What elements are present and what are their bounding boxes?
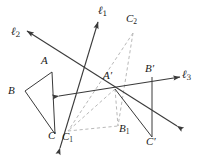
dashed-segment-c2-c1 <box>68 33 133 131</box>
triangle-abc <box>25 72 55 134</box>
label-line-l1: ℓ1 <box>98 5 107 16</box>
geometry-figure: ℓ1 ℓ2 ℓ3 A B C A′ B′ C′ B1 C1 C2 <box>0 0 206 161</box>
dashed-construction-lines <box>68 33 133 131</box>
label-vertex-b-prime: B′ <box>145 63 154 74</box>
dashed-segment-aprime-c1 <box>68 89 115 131</box>
line-l3 <box>59 77 180 96</box>
segment-ab <box>25 72 52 91</box>
dashed-segment-aprime-b1 <box>115 89 118 126</box>
label-vertex-a: A <box>41 55 48 66</box>
label-line-l2: ℓ2 <box>11 26 20 37</box>
segment-ac <box>52 72 55 134</box>
line-l2 <box>27 31 177 126</box>
label-vertex-a-prime: A′ <box>103 70 112 81</box>
label-vertex-c1: C1 <box>62 131 73 142</box>
label-vertex-c2: C2 <box>126 13 137 24</box>
segment-bc <box>25 91 55 134</box>
label-line-l3: ℓ3 <box>182 69 191 80</box>
label-vertex-c-prime: C′ <box>146 136 156 147</box>
dashed-segment-c1-b1 <box>68 126 118 131</box>
dashed-segment-c2-b1 <box>118 33 133 126</box>
label-vertex-c: C <box>48 130 55 141</box>
label-vertex-b1: B1 <box>119 123 129 134</box>
label-vertex-b: B <box>8 85 15 96</box>
